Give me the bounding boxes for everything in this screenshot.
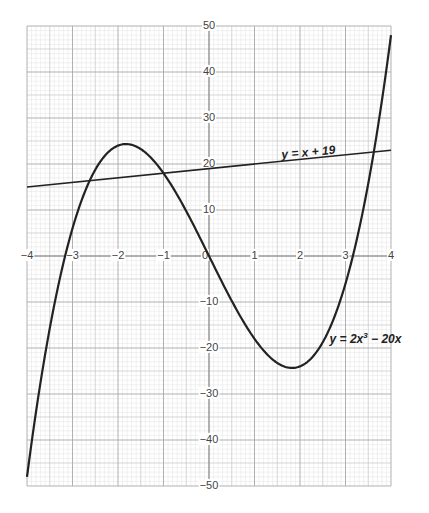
y-tick-label: 20 xyxy=(203,157,215,169)
y-tick-label: 10 xyxy=(203,203,215,215)
y-tick-label: −40 xyxy=(200,433,219,445)
y-tick-label: −10 xyxy=(200,295,219,307)
y-tick-label: 30 xyxy=(203,111,215,123)
label-cubic-part2: − 20x xyxy=(368,332,403,346)
graph-chart: −4−3−2−1012345040302010−10−20−30−40−50 y… xyxy=(0,0,429,513)
label-cubic-equation: y = 2x3 − 20x xyxy=(329,331,403,346)
x-tick-label: −4 xyxy=(21,249,34,261)
y-tick-label: −30 xyxy=(200,387,219,399)
y-tick-label: −20 xyxy=(200,341,219,353)
x-tick-label: 2 xyxy=(297,249,303,261)
y-tick-label: 40 xyxy=(203,65,215,77)
y-tick-label: −50 xyxy=(200,479,219,491)
x-tick-label: −2 xyxy=(112,249,125,261)
x-tick-label: −3 xyxy=(66,249,79,261)
label-cubic-part1: y = 2x xyxy=(329,332,365,346)
x-tick-label: 4 xyxy=(388,249,394,261)
x-tick-label: 3 xyxy=(342,249,348,261)
x-tick-label: −1 xyxy=(157,249,170,261)
y-tick-label: 50 xyxy=(203,19,215,31)
x-tick-label: 1 xyxy=(251,249,257,261)
